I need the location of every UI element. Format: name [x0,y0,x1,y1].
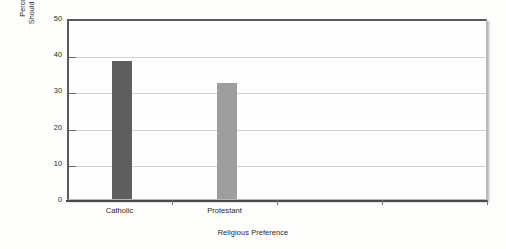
x-tick-mark [277,200,278,205]
y-axis-title-line-1: Percentage Saying Abortion [18,0,27,17]
y-tick-mark [69,130,76,131]
x-tick-mark [172,200,173,205]
x-axis-title: Religious Preference [0,228,506,237]
y-tick-label: 40 [40,51,62,59]
gridline [69,166,486,167]
x-tick-mark [382,200,383,205]
bar-catholic [112,61,132,199]
y-axis-tick-labels: 01020304050 [40,0,62,249]
y-tick-mark [69,57,76,58]
x-tick-label: Catholic [106,206,133,215]
y-tick-mark [69,93,76,94]
y-tick-label: 10 [40,160,62,168]
y-tick-label: 20 [40,124,62,132]
y-axis-title: Percentage Saying Abortion Should Be Leg… [14,0,40,54]
gridline [69,57,486,58]
y-tick-mark [69,166,76,167]
x-tick-mark [487,200,488,205]
y-tick-label: 30 [40,87,62,95]
gridline [69,93,486,94]
y-tick-label: 50 [40,15,62,23]
y-tick-label: 0 [40,196,62,204]
x-tick-label: Protestant [207,206,242,215]
bar-protestant [217,83,237,199]
y-axis-title-line-2: Should Be Legal for Any Reason [27,0,36,24]
gridline [69,130,486,131]
plot-area [67,19,487,200]
bar-chart-figure: Percentage Saying Abortion Should Be Leg… [0,0,506,249]
